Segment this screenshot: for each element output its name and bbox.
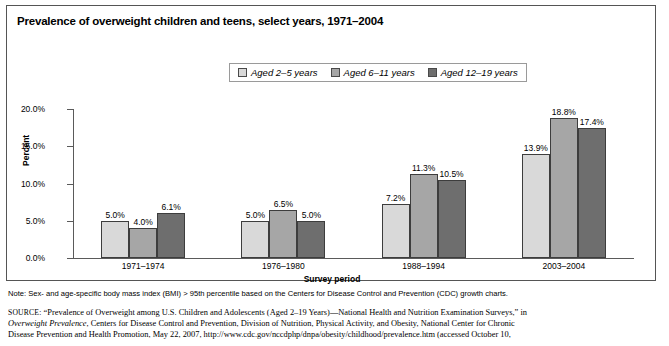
bar-value-label: 6.1%	[149, 202, 193, 212]
source-label: SOURCE:	[8, 308, 41, 317]
source-text-2: , Centers for Disease Control and Preven…	[87, 319, 515, 328]
bar[interactable]: 13.9%	[522, 154, 550, 258]
bar-group: 7.2%11.3%10.5%	[379, 109, 469, 258]
y-tick-label: 20.0%	[0, 104, 45, 114]
source-italic-title: Overweight Prevalence	[8, 319, 87, 328]
y-axis-line	[73, 109, 74, 259]
bar-value-label: 5.0%	[289, 210, 333, 220]
figure-note: Note: Sex- and age-specific body mass in…	[8, 289, 663, 299]
bar[interactable]: 11.3%	[410, 174, 438, 258]
x-axis-line	[73, 258, 634, 259]
bar[interactable]: 5.0%	[297, 221, 325, 258]
bar-group: 5.0%4.0%6.1%	[98, 109, 188, 258]
bar-group: 13.9%18.8%17.4%	[519, 109, 609, 258]
y-tick-mark	[67, 109, 73, 110]
source-text-1: “Prevalence of Overweight among U.S. Chi…	[44, 308, 527, 317]
source-line-1: SOURCE: “Prevalence of Overweight among …	[8, 307, 669, 318]
bar[interactable]: 17.4%	[578, 128, 606, 258]
chart-plot-area: 0.0%5.0%10.0%15.0%20.0% 5.0%4.0%6.1%5.0%…	[7, 6, 657, 282]
y-tick-label: 5.0%	[0, 216, 45, 226]
x-tick-label: 1971–1974	[98, 261, 188, 271]
bar-value-label: 17.4%	[570, 117, 614, 127]
y-tick-mark	[67, 184, 73, 185]
y-tick-mark	[67, 146, 73, 147]
source-line-3: Disease Prevention and Health Promotion,…	[8, 329, 669, 340]
y-tick-mark	[67, 221, 73, 222]
x-tick-label: 1988–1994	[379, 261, 469, 271]
bar[interactable]: 6.1%	[157, 213, 185, 258]
bar[interactable]: 7.2%	[382, 204, 410, 258]
bar[interactable]: 18.8%	[550, 118, 578, 258]
x-axis-title: Survey period	[7, 274, 657, 284]
x-tick-label: 2003–2004	[519, 261, 609, 271]
bar-value-label: 10.5%	[430, 169, 474, 179]
bar-value-label: 6.5%	[261, 199, 305, 209]
bar-value-label: 18.8%	[542, 107, 586, 117]
figure-panel: Prevalence of overweight children and te…	[6, 5, 656, 281]
figure-source: SOURCE: “Prevalence of Overweight among …	[8, 307, 669, 340]
source-line-2: Overweight Prevalence, Centers for Disea…	[8, 318, 669, 329]
bar[interactable]: 10.5%	[438, 180, 466, 258]
y-tick-label: 10.0%	[0, 179, 45, 189]
y-tick-label: 0.0%	[0, 253, 45, 263]
bar-group: 5.0%6.5%5.0%	[238, 109, 328, 258]
x-tick-label: 1976–1980	[238, 261, 328, 271]
bar[interactable]: 4.0%	[129, 228, 157, 258]
bar[interactable]: 5.0%	[241, 221, 269, 258]
y-axis-title: Percent	[21, 135, 31, 166]
y-tick-mark	[67, 258, 73, 259]
